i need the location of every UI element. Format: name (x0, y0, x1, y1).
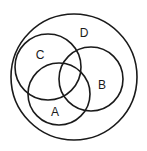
set-a-label: A (51, 105, 59, 119)
set-d-label: D (80, 26, 89, 40)
set-b-label: B (98, 78, 106, 92)
set-b-circle (59, 47, 123, 111)
set-c-circle (15, 34, 81, 100)
venn-svg: D C B A (0, 0, 147, 151)
venn-diagram: D C B A (0, 0, 147, 151)
set-c-label: C (36, 48, 45, 62)
